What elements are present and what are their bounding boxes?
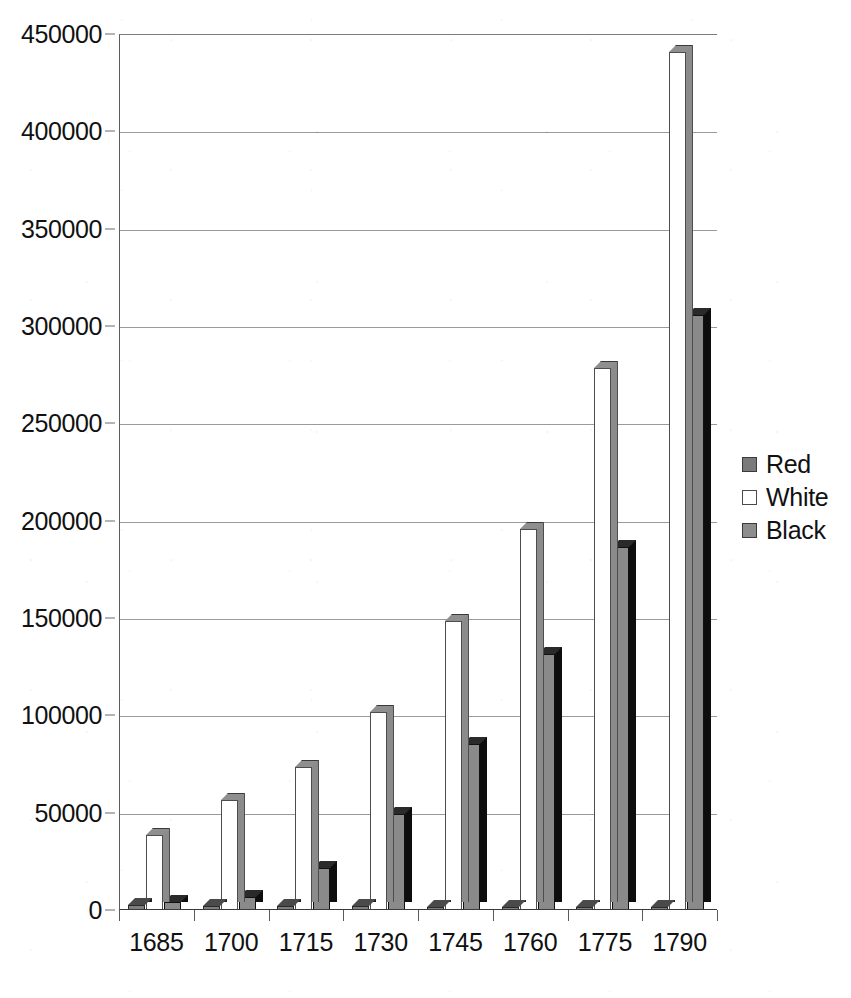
y-tick-mark <box>105 715 115 716</box>
bars-layer <box>120 35 717 909</box>
legend-swatch-icon <box>742 490 757 505</box>
bar-front-face <box>502 907 519 909</box>
bar-white-1775[interactable] <box>594 368 611 909</box>
x-tick-mark <box>418 910 419 921</box>
bar-front-face <box>445 621 462 909</box>
x-tick-mark <box>568 910 569 921</box>
x-tick-mark <box>717 910 718 921</box>
x-tick-mark <box>642 910 643 921</box>
x-tick-label: 1700 <box>204 928 258 956</box>
x-tick-label: 1730 <box>353 928 407 956</box>
legend-item-white[interactable]: White <box>742 481 847 514</box>
bar-chart: 0500001000001500002000002500003000003500… <box>0 0 851 998</box>
bar-front-face <box>295 767 312 909</box>
bar-side-face <box>537 522 544 902</box>
x-tick-label: 1760 <box>503 928 557 956</box>
bar-front-face <box>651 907 668 909</box>
y-tick-label: 150000 <box>21 606 102 631</box>
bar-front-face <box>128 905 145 909</box>
x-tick-label: 1745 <box>428 928 482 956</box>
y-tick-mark <box>105 618 115 619</box>
bar-white-1700[interactable] <box>221 800 238 909</box>
bar-front-face <box>594 368 611 909</box>
bar-white-1715[interactable] <box>295 767 312 909</box>
y-tick-mark <box>105 228 115 229</box>
bar-side-face <box>480 737 487 902</box>
plot-area <box>119 34 717 910</box>
y-tick-mark <box>105 34 115 35</box>
bar-front-face <box>164 902 181 909</box>
bar-side-face <box>163 828 170 902</box>
legend-label: Black <box>766 518 826 543</box>
bar-red-1685[interactable] <box>128 905 145 909</box>
bar-black-1685[interactable] <box>164 902 181 909</box>
legend-swatch-icon <box>742 457 757 472</box>
bar-white-1730[interactable] <box>370 712 387 909</box>
bar-front-face <box>520 529 537 909</box>
bar-group <box>270 35 345 909</box>
bar-side-face <box>555 647 562 902</box>
bar-group <box>195 35 270 909</box>
bar-red-1730[interactable] <box>352 906 369 909</box>
legend-item-red[interactable]: Red <box>742 448 847 481</box>
y-tick-mark <box>105 812 115 813</box>
y-tick-label: 50000 <box>34 800 102 825</box>
bar-side-face <box>462 614 469 902</box>
bar-front-face <box>576 907 593 909</box>
y-tick-label: 350000 <box>21 216 102 241</box>
y-tick-mark <box>105 326 115 327</box>
bar-front-face <box>203 906 220 910</box>
legend-label: White <box>766 485 828 510</box>
bar-side-face <box>686 45 693 902</box>
bar-front-face <box>221 800 238 909</box>
x-tick-mark <box>119 910 120 921</box>
bar-group <box>120 35 195 909</box>
bar-front-face <box>427 907 444 909</box>
x-tick-label: 1775 <box>578 928 632 956</box>
bar-front-face <box>370 712 387 909</box>
bar-side-face <box>611 361 618 902</box>
y-tick-label: 200000 <box>21 508 102 533</box>
bar-red-1700[interactable] <box>203 906 220 910</box>
bar-front-face <box>277 906 294 909</box>
y-tick-mark <box>105 910 115 911</box>
legend-swatch-icon <box>742 523 757 538</box>
x-tick-label: 1790 <box>652 928 706 956</box>
legend-label: Red <box>766 452 811 477</box>
legend-item-black[interactable]: Black <box>742 514 847 547</box>
bar-red-1775[interactable] <box>576 907 593 909</box>
y-tick-mark <box>105 520 115 521</box>
x-tick-mark <box>269 910 270 921</box>
chart-legend: RedWhiteBlack <box>742 448 847 547</box>
y-tick-mark <box>105 423 115 424</box>
bar-group <box>419 35 494 909</box>
bar-red-1745[interactable] <box>427 907 444 909</box>
y-tick-label: 300000 <box>21 314 102 339</box>
y-tick-label: 100000 <box>21 703 102 728</box>
bar-front-face <box>352 906 369 909</box>
bar-red-1790[interactable] <box>651 907 668 909</box>
x-axis: 16851700171517301745176017751790 <box>119 910 717 990</box>
y-tick-label: 0 <box>88 898 102 923</box>
bar-white-1790[interactable] <box>669 52 686 909</box>
bar-front-face <box>669 52 686 909</box>
x-tick-mark <box>343 910 344 921</box>
y-tick-label: 400000 <box>21 119 102 144</box>
bar-white-1760[interactable] <box>520 529 537 909</box>
bar-side-face <box>629 540 636 902</box>
bar-side-face <box>238 793 245 902</box>
bar-group <box>344 35 419 909</box>
bar-side-face <box>330 861 337 902</box>
bar-red-1760[interactable] <box>502 907 519 909</box>
y-tick-label: 250000 <box>21 411 102 436</box>
bar-white-1745[interactable] <box>445 621 462 909</box>
x-tick-mark <box>493 910 494 921</box>
x-tick-label: 1685 <box>129 928 183 956</box>
bar-side-face <box>312 760 319 902</box>
y-tick-mark <box>105 131 115 132</box>
bar-side-face <box>387 705 394 902</box>
y-tick-label: 450000 <box>21 22 102 47</box>
bar-red-1715[interactable] <box>277 906 294 909</box>
x-tick-mark <box>194 910 195 921</box>
y-axis: 0500001000001500002000002500003000003500… <box>0 0 118 998</box>
